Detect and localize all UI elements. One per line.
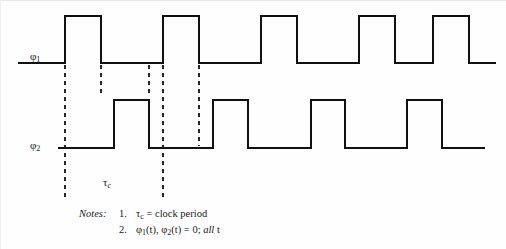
signal-label-phi2: φ2 [30,140,40,153]
note-text-fragment: all [203,224,214,235]
note-number-1: 1. [119,207,136,220]
waveform-canvas [1,1,506,249]
note-text-fragment: (t), φ [146,224,167,235]
note-row-2: 2. φ1(t), φ2(t) = 0; all t [79,223,220,239]
clock-period-annotation: τc [103,177,111,190]
phi1-trace [19,16,495,63]
note-text-fragment: (t) = 0; [171,224,203,235]
note-text-fragment: = clock period [144,208,207,219]
signal-label-phi2-subscript: 2 [36,144,40,153]
note-text-2: φ1(t), φ2(t) = 0; all t [136,223,220,239]
timing-diagram-figure: φ1 φ2 τc Notes: 1. τc = clock period 2. … [0,0,506,249]
notes-heading: Notes: [79,207,119,220]
tau-subscript: c [107,181,111,190]
note-text-fragment: t [214,224,220,235]
dashed-guide-lines [65,65,199,201]
note-row-1: Notes: 1. τc = clock period [79,207,220,223]
phi2-trace [59,100,484,148]
notes-block: Notes: 1. τc = clock period 2. φ1(t), φ2… [79,207,220,239]
signal-label-phi1-subscript: 1 [36,55,40,64]
note-number-2: 2. [119,223,136,236]
phi2-waveform [59,100,484,148]
signal-label-phi1: φ1 [30,51,40,64]
phi1-waveform [19,16,495,63]
note-text-1: τc = clock period [136,207,207,223]
